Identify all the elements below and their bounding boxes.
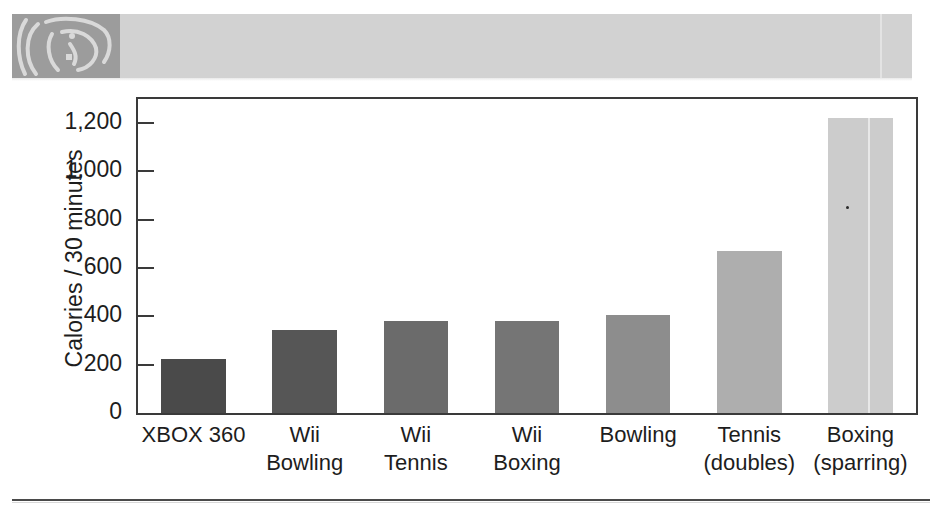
bar [828, 118, 892, 413]
y-tick-mark [138, 267, 154, 269]
bar [495, 321, 559, 413]
x-axis-category-labels: XBOX 360WiiBowlingWiiTennisWiiBoxingBowl… [136, 421, 918, 497]
y-tick-label: 1,200 [38, 110, 122, 133]
x-tick-label-line2: Boxing [440, 449, 613, 477]
x-tick-label-line1: Wii [289, 422, 320, 447]
bar-series [138, 99, 916, 413]
y-tick-mark [138, 315, 154, 317]
footer-rule [12, 499, 930, 501]
x-tick-label-line1: Boxing [827, 422, 894, 447]
y-tick-label: 1,000 [38, 158, 122, 181]
scan-artifact-figure [12, 14, 120, 78]
footer-rule-ghost [12, 502, 930, 503]
decorative-header-band [12, 14, 912, 78]
x-tick-label-line1: Wii [401, 422, 432, 447]
plot-frame [136, 97, 918, 415]
x-tick-label-line1: Wii [512, 422, 543, 447]
bar-chart: Calories / 30 minutes 02004006008001,000… [0, 95, 940, 495]
bar [606, 315, 670, 413]
bar [717, 251, 781, 413]
y-tick-mark [138, 170, 154, 172]
y-tick-label: 800 [38, 206, 122, 229]
x-tick-label: Boxing(sparring) [774, 421, 940, 477]
band-seam-line [880, 14, 882, 78]
y-tick-mark [138, 122, 154, 124]
bar-scan-seam [868, 118, 870, 413]
plot-area [138, 99, 916, 413]
y-tick-label: 200 [38, 351, 122, 374]
y-tick-mark [138, 219, 154, 221]
bar [272, 330, 336, 413]
scan-speck [846, 206, 849, 209]
abstract-outline-icon [12, 14, 120, 78]
x-tick-label-line1: Tennis [717, 422, 781, 447]
band-drop-shadow [12, 78, 912, 81]
y-axis-tick-labels: 02004006008001,0001,200 [38, 95, 122, 425]
bar [161, 359, 225, 413]
y-tick-mark [138, 364, 154, 366]
bar [384, 321, 448, 413]
y-tick-label: 600 [38, 255, 122, 278]
page-canvas: Calories / 30 minutes 02004006008001,000… [0, 0, 940, 511]
y-tick-label: 400 [38, 303, 122, 326]
x-tick-label-line2: (sparring) [774, 449, 940, 477]
y-tick-label: 0 [38, 400, 122, 423]
